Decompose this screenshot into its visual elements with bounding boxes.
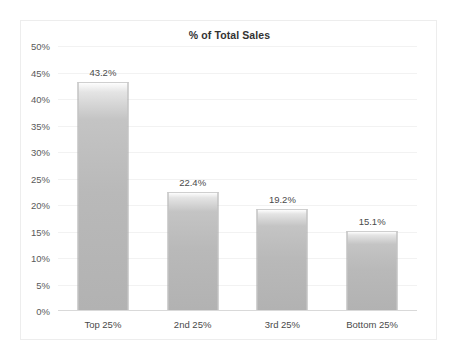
y-axis-tick-label: 0% — [36, 306, 50, 317]
y-axis: 50%45%40%35%30%25%20%15%10%5%0% — [21, 46, 54, 311]
bar-slot: 15.1% — [327, 46, 417, 311]
bar[interactable] — [167, 192, 218, 311]
bar-value-label: 22.4% — [179, 177, 206, 188]
bar-value-label: 15.1% — [359, 216, 386, 227]
y-axis-tick-label: 5% — [36, 279, 50, 290]
x-axis-line — [58, 310, 417, 311]
y-axis-tick-label: 40% — [31, 94, 50, 105]
y-axis-tick-label: 10% — [31, 253, 50, 264]
x-axis-category-label: Top 25% — [84, 319, 121, 330]
x-axis-category-label: 3rd 25% — [265, 319, 300, 330]
y-axis-tick-label: 50% — [31, 41, 50, 52]
bar-value-label: 19.2% — [269, 194, 296, 205]
y-axis-tick-label: 25% — [31, 173, 50, 184]
bar[interactable] — [77, 82, 128, 311]
bar-slot: 22.4% — [148, 46, 238, 311]
y-axis-tick-label: 15% — [31, 226, 50, 237]
bar-slot: 43.2% — [58, 46, 148, 311]
bar[interactable] — [257, 209, 308, 311]
y-axis-tick-label: 35% — [31, 120, 50, 131]
bar-value-label: 43.2% — [89, 67, 116, 78]
x-axis-category-label: Bottom 25% — [346, 319, 398, 330]
y-axis-tick-label: 20% — [31, 200, 50, 211]
bar[interactable] — [347, 231, 398, 311]
x-axis-category-label: 2nd 25% — [174, 319, 212, 330]
chart-frame: % of Total Sales 50%45%40%35%30%25%20%15… — [20, 20, 437, 340]
bar-slot: 19.2% — [238, 46, 328, 311]
plot-area: 43.2%22.4%19.2%15.1% — [58, 46, 417, 311]
chart-title: % of Total Sales — [21, 29, 438, 41]
y-axis-tick-label: 30% — [31, 147, 50, 158]
bar-chart: % of Total Sales 50%45%40%35%30%25%20%15… — [0, 0, 458, 357]
y-axis-tick-label: 45% — [31, 67, 50, 78]
